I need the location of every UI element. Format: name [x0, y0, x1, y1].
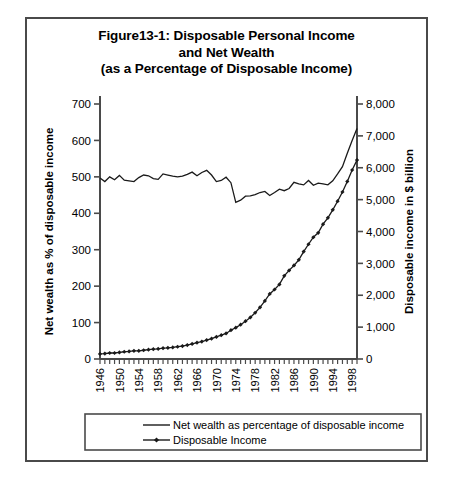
x-tick-label: 1946	[94, 368, 106, 392]
series-marker-disposable-income	[205, 338, 209, 342]
y-tick-label-left: 600	[72, 135, 91, 147]
y-tick-label-left: 200	[72, 280, 91, 292]
series-marker-disposable-income	[219, 333, 223, 337]
x-tick-label: 1994	[327, 368, 339, 392]
series-marker-disposable-income	[151, 347, 155, 351]
y-tick-label-left: 0	[85, 353, 91, 365]
series-line-net-wealth	[100, 128, 357, 202]
series-marker-disposable-income	[214, 335, 218, 339]
y-axis-title-left: Net wealth as % of disposable income	[43, 128, 55, 336]
y-tick-label-right: 1,000	[366, 321, 395, 333]
series-marker-disposable-income	[103, 351, 107, 355]
legend-label-disposable-income: Disposable Income	[173, 434, 267, 446]
series-marker-disposable-income	[161, 346, 165, 350]
chart-svg: 010020030040050060070001,0002,0003,0004,…	[27, 19, 430, 464]
x-tick-label: 1986	[288, 368, 300, 392]
y-tick-label-left: 100	[72, 317, 91, 329]
series-marker-disposable-income	[137, 349, 141, 353]
series-marker-disposable-income	[117, 350, 121, 354]
series-marker-disposable-income	[355, 158, 359, 162]
series-marker-disposable-income	[180, 344, 184, 348]
series-marker-disposable-income	[200, 339, 204, 343]
x-tick-label: 1966	[191, 368, 203, 392]
plot-area: 010020030040050060070001,0002,0003,0004,…	[27, 19, 430, 464]
y-tick-label-right: 6,000	[366, 162, 395, 174]
x-tick-label: 1970	[211, 368, 223, 392]
series-line-disposable-income	[100, 160, 357, 354]
y-tick-label-right: 2,000	[366, 289, 395, 301]
series-marker-disposable-income	[166, 346, 170, 350]
series-marker-disposable-income	[345, 179, 349, 183]
x-tick-label: 1950	[114, 368, 126, 392]
y-tick-label-right: 7,000	[366, 130, 395, 142]
y-tick-label-right: 0	[366, 353, 372, 365]
x-tick-label: 1974	[230, 368, 242, 392]
series-marker-disposable-income	[142, 348, 146, 352]
y-tick-label-left: 500	[72, 171, 91, 183]
y-tick-label-left: 700	[72, 98, 91, 110]
y-tick-label-right: 3,000	[366, 258, 395, 270]
x-tick-label: 1982	[269, 368, 281, 392]
series-marker-disposable-income	[146, 348, 150, 352]
x-tick-label: 1998	[346, 368, 358, 392]
y-tick-label-left: 400	[72, 207, 91, 219]
series-marker-disposable-income	[190, 342, 194, 346]
series-marker-disposable-income	[132, 349, 136, 353]
series-marker-disposable-income	[112, 351, 116, 355]
series-marker-disposable-income	[171, 345, 175, 349]
series-marker-disposable-income	[127, 349, 131, 353]
series-marker-disposable-income	[195, 341, 199, 345]
x-tick-label: 1962	[172, 368, 184, 392]
figure-panel: Figure13-1: Disposable Personal Income a…	[25, 17, 428, 462]
series-marker-disposable-income	[350, 168, 354, 172]
legend-label-net-wealth: Net wealth as percentage of disposable i…	[173, 419, 404, 431]
y-axis-title-right: Disposable income in $ billion	[403, 149, 415, 314]
y-tick-label-right: 8,000	[366, 98, 395, 110]
series-marker-disposable-income	[108, 351, 112, 355]
series-marker-disposable-income	[209, 337, 213, 341]
series-marker-disposable-income	[98, 352, 102, 356]
series-marker-disposable-income	[122, 350, 126, 354]
x-tick-label: 1958	[152, 368, 164, 392]
x-tick-label: 1990	[308, 368, 320, 392]
y-tick-label-right: 4,000	[366, 226, 395, 238]
series-marker-disposable-income	[156, 347, 160, 351]
series-marker-disposable-income	[185, 343, 189, 347]
x-tick-label: 1954	[133, 368, 145, 392]
y-tick-label-left: 300	[72, 244, 91, 256]
series-marker-disposable-income	[175, 345, 179, 349]
y-tick-label-right: 5,000	[366, 194, 395, 206]
x-tick-label: 1978	[249, 368, 261, 392]
